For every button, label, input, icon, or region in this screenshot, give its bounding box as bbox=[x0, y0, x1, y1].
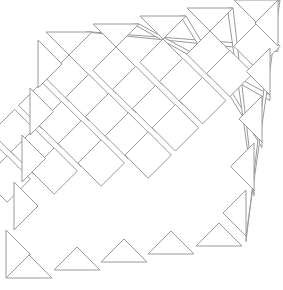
left-setting-triangle bbox=[14, 182, 38, 230]
bottom-setting-triangle bbox=[101, 239, 147, 262]
bottom-setting-triangle bbox=[148, 231, 194, 254]
top-setting-triangle bbox=[140, 16, 186, 39]
top-setting-triangle bbox=[46, 32, 92, 55]
top-setting-triangle bbox=[187, 8, 233, 31]
right-setting-triangle bbox=[223, 190, 246, 236]
quilt-diagram bbox=[0, 0, 283, 290]
right-setting-triangle bbox=[231, 143, 255, 190]
bottom-setting-triangle bbox=[54, 247, 100, 270]
bottom-setting-triangle bbox=[196, 223, 242, 246]
